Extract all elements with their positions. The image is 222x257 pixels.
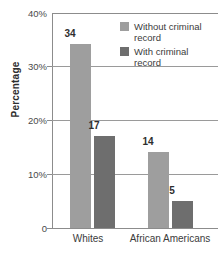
bar-chart: Percentage 40% 30% 20% 10% 0 34 17 14 5 … — [0, 0, 222, 257]
y-axis-title: Percentage — [10, 35, 21, 145]
legend-item-with-record[interactable]: With criminal record — [120, 46, 216, 68]
y-tick-label-10: 10% — [7, 169, 47, 180]
bar-whites-without-record[interactable] — [70, 44, 91, 228]
x-category-label-whites: Whites — [58, 233, 118, 244]
y-tick-label-40: 40% — [7, 8, 47, 19]
legend-label-with-record: With criminal record — [134, 46, 216, 68]
bar-value-whites-with: 17 — [84, 120, 104, 131]
legend: Without criminal record With criminal re… — [120, 21, 216, 71]
bar-value-african-americans-without: 14 — [138, 136, 158, 147]
bar-african-americans-with-record[interactable] — [172, 201, 193, 228]
bar-value-african-americans-with: 5 — [162, 185, 182, 196]
y-tick-label-20: 20% — [7, 115, 47, 126]
bar-value-whites-without: 34 — [60, 28, 80, 39]
y-tick-label-0: 0 — [7, 223, 47, 234]
x-axis-line — [52, 228, 218, 229]
cut-off-caption — [4, 250, 214, 257]
y-tick-label-30: 30% — [7, 61, 47, 72]
x-category-label-african-americans: African Americans — [122, 233, 218, 244]
legend-item-without-record[interactable]: Without criminal record — [120, 21, 216, 43]
legend-swatch-icon-with-record — [120, 47, 129, 56]
bar-whites-with-record[interactable] — [94, 136, 115, 228]
legend-swatch-icon-without-record — [120, 22, 129, 31]
legend-label-without-record: Without criminal record — [134, 21, 216, 43]
